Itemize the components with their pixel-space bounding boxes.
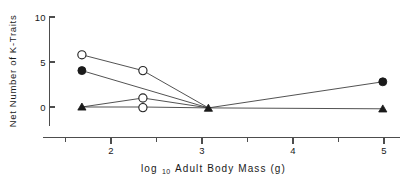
markers-open-circle-lower [139,94,147,112]
x-tick-label-5: 5 [381,145,387,156]
y-tick-label-5: 5 [40,57,46,68]
x-axis-title-suffix: Adult Body Mass (g) [175,163,286,174]
x-tick-labels: 2 3 4 5 [108,145,387,156]
data-point-open-circle [139,104,147,112]
y-tick-labels: 10 5 0 [35,12,46,113]
data-point-open-circle [139,94,147,102]
y-axis-title-text: Net Number of K-Traits [7,15,18,128]
series-lines [82,55,383,109]
y-tick-label-10: 10 [35,12,46,23]
data-point-open-circle [139,67,147,75]
chart-figure: 10 5 0 2 3 4 5 log 10 Adult Bod [0,0,417,178]
data-point-open-circle [78,51,86,59]
chart-plot-area: 10 5 0 2 3 4 5 log 10 Adult Bod [0,0,417,178]
data-point-filled-circle [78,67,86,75]
y-axis-title: Net Number of K-Traits [7,15,18,128]
data-point-filled-circle [379,78,387,86]
x-axis-title: log 10 Adult Body Mass (g) [141,163,286,175]
y-tick-marks [50,17,55,107]
series-line-filled-triangle [82,107,383,109]
x-tick-label-4: 4 [290,145,296,156]
x-axis-title-prefix: log [141,163,158,174]
y-tick-label-0: 0 [40,102,46,113]
x-axis-title-subscript: 10 [162,168,170,175]
series-line-filled-circle [82,71,383,108]
x-tick-label-3: 3 [199,145,205,156]
x-tick-label-2: 2 [108,145,114,156]
axis-group [43,16,400,138]
